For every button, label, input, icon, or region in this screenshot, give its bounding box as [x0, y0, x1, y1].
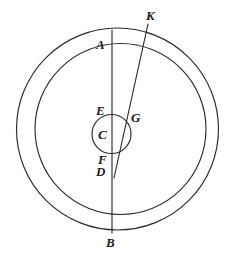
inner-circle: [35, 44, 206, 215]
shape-layer: [17, 24, 219, 233]
point-label-a: A: [96, 38, 105, 51]
point-label-b: B: [106, 236, 115, 249]
geometry-canvas: [0, 0, 241, 262]
point-label-k: K: [146, 9, 155, 22]
geometry-figure: KAEGCFDB: [0, 0, 241, 262]
point-label-e: E: [96, 104, 105, 117]
outer-circle: [17, 28, 219, 230]
segment-KD: [114, 24, 148, 178]
point-label-d: D: [96, 165, 105, 178]
point-label-g: G: [131, 111, 140, 124]
point-label-c: C: [98, 128, 107, 141]
